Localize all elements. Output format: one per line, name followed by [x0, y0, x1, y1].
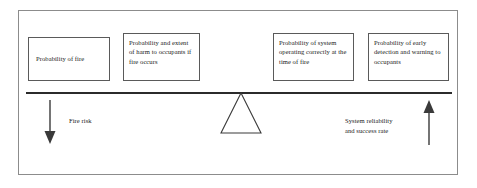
factor-box-harm-to-occupants: Probability and extent of harm to occupa… [123, 33, 200, 81]
factor-box-text: Probability of fire [36, 54, 84, 63]
diagram-canvas: Probability of fire Probability and exte… [0, 0, 477, 188]
factor-box-text: Probability of system operating correctl… [279, 39, 346, 65]
diagram-frame: Probability of fire Probability and exte… [18, 10, 458, 175]
factor-box-text: Probability and extent of harm to occupa… [129, 39, 191, 65]
arrow-up-icon [422, 99, 436, 145]
fulcrum-triangle-icon [219, 91, 263, 135]
factor-box-text: Probability of early detection and warni… [374, 39, 441, 65]
factor-box-system-operating-correctly: Probability of system operating correctl… [273, 33, 354, 81]
factor-box-early-detection-warning: Probability of early detection and warni… [368, 33, 449, 81]
label-system-reliability: System reliability and success rate [345, 116, 393, 135]
factor-box-probability-of-fire: Probability of fire [28, 37, 110, 81]
arrow-down-icon [43, 100, 57, 145]
label-fire-risk: Fire risk [69, 116, 92, 126]
